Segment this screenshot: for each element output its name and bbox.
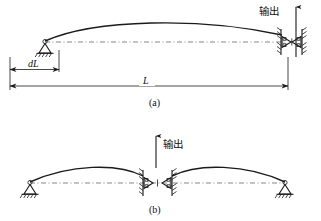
wall-a-inner [277,28,281,56]
wall-b-left [139,169,143,197]
bowtie-mechanism-b [139,169,177,197]
wall-b-right [172,169,177,197]
caption-a: (a) [149,97,160,109]
arch-curve-b-left [30,167,143,182]
wall-a-outer [302,28,307,56]
left-pin-support-a [35,39,53,57]
left-pin-support-b [20,180,38,198]
engineering-diagram: 输出 [0,0,321,221]
output-annotation-b: 输出 [156,136,183,168]
bowtie-mechanism-a [277,28,307,56]
dimension-label-dL: dL [28,58,39,69]
arch-curve-b-right [172,167,285,182]
panel-b: 输出 [20,136,293,216]
output-label-a: 输出 [259,5,279,17]
dimension-dL: dL [10,50,59,78]
caption-b: (b) [149,204,161,216]
dimension-label-L: L [142,75,149,86]
output-label-b: 输出 [163,138,183,150]
figure-canvas: 输出 [0,0,321,221]
ground-hatch-a-left [35,53,51,57]
panel-a: 输出 [10,5,307,109]
arch-curve-a [45,23,282,41]
dimension-L: L [10,57,288,90]
